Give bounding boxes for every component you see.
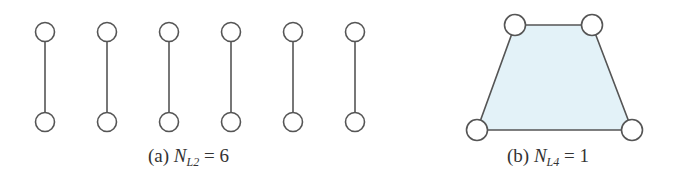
caption-b-variable: N (534, 145, 547, 166)
node (346, 23, 365, 42)
caption-a-label: (a) (148, 145, 169, 166)
face (477, 25, 632, 130)
node (582, 15, 603, 36)
caption-b-value: = 1 (564, 145, 589, 166)
node (346, 113, 365, 132)
caption-b-label: (b) (507, 145, 529, 166)
caption-a-subscript: L2 (187, 155, 200, 169)
panel-b-quadrilateral (467, 15, 643, 141)
node (467, 120, 488, 141)
caption-a: (a) NL2 = 6 (148, 146, 229, 168)
node (622, 120, 643, 141)
caption-a-variable: N (174, 145, 187, 166)
caption-b: (b) NL4 = 1 (507, 146, 589, 168)
node (284, 23, 303, 42)
panel-a-line-graphs (36, 23, 365, 132)
node (284, 113, 303, 132)
node (36, 113, 55, 132)
node (222, 113, 241, 132)
node (160, 113, 179, 132)
node (36, 23, 55, 42)
node (222, 23, 241, 42)
node (160, 23, 179, 42)
node (98, 113, 117, 132)
node (505, 15, 526, 36)
caption-b-subscript: L4 (547, 155, 560, 169)
node (98, 23, 117, 42)
caption-a-value: = 6 (204, 145, 229, 166)
